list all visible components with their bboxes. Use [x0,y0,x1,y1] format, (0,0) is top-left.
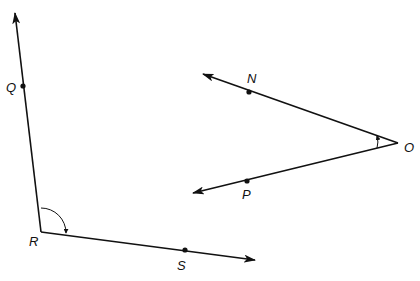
point-n [246,89,251,94]
angle-arc-r [41,208,66,233]
ray-rq [15,13,41,232]
label-s: S [177,258,186,273]
geometry-diagram: Q R S N O P [0,0,420,281]
label-o: O [404,140,414,155]
label-n: N [247,71,257,86]
label-p: P [242,187,251,202]
ray-op [193,143,398,193]
label-r: R [29,234,38,249]
point-s [182,247,187,252]
angle-nop: N O P [193,71,414,202]
point-q [20,83,25,88]
label-q: Q [6,80,16,95]
ray-rs [41,232,255,260]
angle-arc-o [377,136,378,148]
ray-on [203,74,398,143]
angle-qrs: Q R S [6,13,255,273]
point-p [244,178,249,183]
